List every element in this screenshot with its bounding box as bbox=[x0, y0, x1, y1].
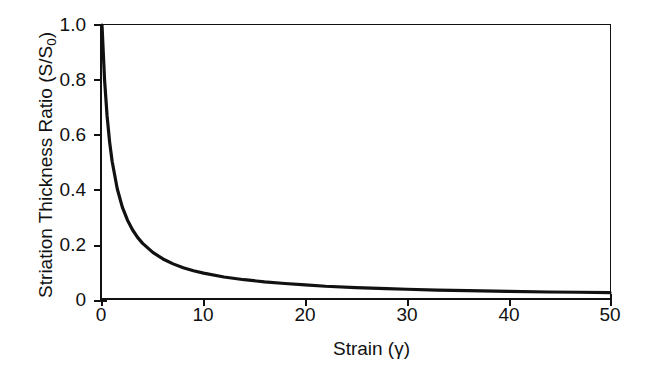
x-tick-label: 30 bbox=[377, 304, 437, 326]
x-tick-label: 40 bbox=[479, 304, 539, 326]
x-tick-label: 0 bbox=[71, 304, 131, 326]
plot-area bbox=[100, 24, 611, 300]
y-axis-title-main: Striation Thickness Ratio (S/S bbox=[35, 46, 56, 298]
chart-figure: 1.0 0.8 0.6 0.4 0.2 0 0 10 20 30 40 50 S… bbox=[0, 0, 648, 374]
x-tick-label: 50 bbox=[580, 304, 640, 326]
x-tick-label: 20 bbox=[275, 304, 335, 326]
x-axis-title-text: Strain (γ) bbox=[333, 338, 410, 359]
x-axis-title: Strain (γ) bbox=[0, 338, 648, 360]
y-axis-title-subscript: 0 bbox=[44, 38, 59, 46]
y-axis-title: Striation Thickness Ratio (S/S0) bbox=[35, 15, 59, 315]
y-axis-title-tail: ) bbox=[35, 32, 56, 38]
data-curve bbox=[102, 25, 610, 298]
x-tick-label: 10 bbox=[173, 304, 233, 326]
